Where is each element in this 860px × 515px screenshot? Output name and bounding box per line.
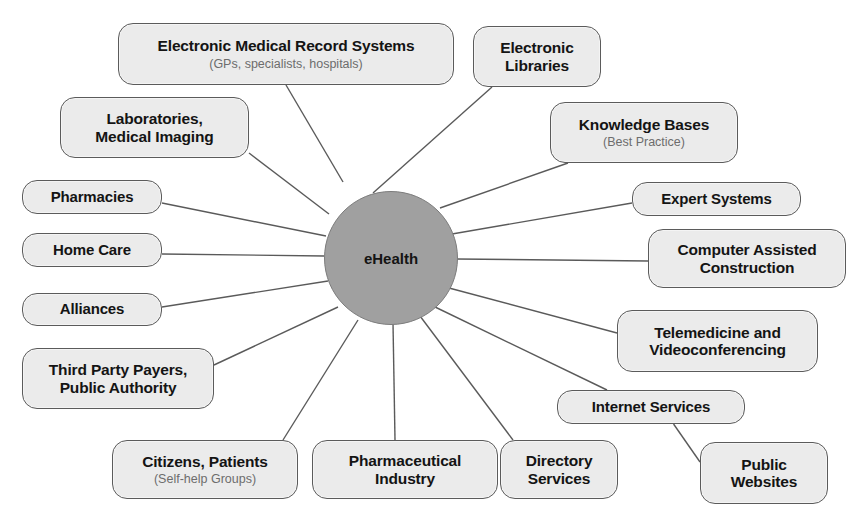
node-title: Knowledge Bases [579, 116, 709, 133]
edge-hub-to-expert [452, 203, 632, 234]
node-citizens[interactable]: Citizens, Patients(Self-help Groups) [112, 440, 298, 499]
node-subtitle: (GPs, specialists, hospitals) [209, 57, 363, 71]
node-internet[interactable]: Internet Services [557, 390, 745, 424]
node-expert[interactable]: Expert Systems [632, 182, 801, 216]
node-title: Electronic Libraries [500, 39, 573, 74]
node-cac[interactable]: Computer Assisted Construction [648, 229, 846, 288]
node-pharmacies[interactable]: Pharmacies [22, 180, 162, 214]
node-homecare[interactable]: Home Care [22, 233, 162, 267]
node-labs[interactable]: Laboratories, Medical Imaging [60, 97, 249, 158]
node-publicweb[interactable]: Public Websites [700, 442, 828, 504]
node-thirdparty[interactable]: Third Party Payers, Public Authority [22, 348, 214, 409]
node-title: Expert Systems [661, 191, 771, 208]
node-title: Pharmaceutical Industry [349, 452, 462, 487]
node-directory[interactable]: Directory Services [500, 440, 618, 499]
edge-hub-to-pharma [393, 323, 395, 440]
edge-hub-to-cac [456, 259, 648, 261]
edge-hub-to-homecare [162, 254, 324, 256]
node-title: Laboratories, Medical Imaging [95, 110, 213, 145]
node-alliances[interactable]: Alliances [22, 293, 162, 326]
edge-hub-to-knowledge [440, 163, 568, 208]
edge-hub-to-internet [433, 306, 607, 390]
edge-hub-to-pharmacies [162, 203, 326, 236]
node-title: Third Party Payers, Public Authority [49, 361, 187, 396]
node-elibraries[interactable]: Electronic Libraries [473, 26, 601, 87]
node-title: Citizens, Patients [142, 453, 268, 470]
node-subtitle: (Self-help Groups) [154, 472, 256, 486]
edge-hub-to-labs [249, 153, 329, 214]
edge-hub-to-alliances [162, 281, 328, 307]
node-pharma[interactable]: Pharmaceutical Industry [312, 440, 498, 499]
hub-label: eHealth [364, 250, 418, 267]
edge-hub-to-emr [286, 85, 343, 182]
node-title: Telemedicine and Videoconferencing [649, 324, 786, 359]
node-emr[interactable]: Electronic Medical Record Systems(GPs, s… [118, 23, 454, 85]
node-title: Electronic Medical Record Systems [158, 37, 415, 54]
node-title: Pharmacies [51, 189, 134, 206]
hub-node-ehealth[interactable]: eHealth [324, 191, 458, 325]
edge-hub-to-elibraries [373, 87, 492, 193]
node-title: Alliances [60, 301, 125, 318]
node-telemedicine[interactable]: Telemedicine and Videoconferencing [617, 310, 818, 372]
node-title: Home Care [53, 242, 131, 259]
edge-internet-to-publicweb [674, 424, 700, 462]
node-title: Computer Assisted Construction [678, 241, 817, 276]
node-subtitle: (Best Practice) [603, 135, 685, 149]
edge-hub-to-thirdparty [214, 307, 338, 365]
edge-hub-to-citizens [283, 320, 358, 440]
ehealth-concept-map: eHealth Electronic Medical Record System… [0, 0, 860, 515]
node-knowledge[interactable]: Knowledge Bases(Best Practice) [550, 102, 738, 163]
node-title: Public Websites [731, 456, 798, 491]
node-title: Directory Services [526, 452, 593, 487]
node-title: Internet Services [592, 399, 710, 416]
edge-hub-to-directory [420, 316, 513, 440]
